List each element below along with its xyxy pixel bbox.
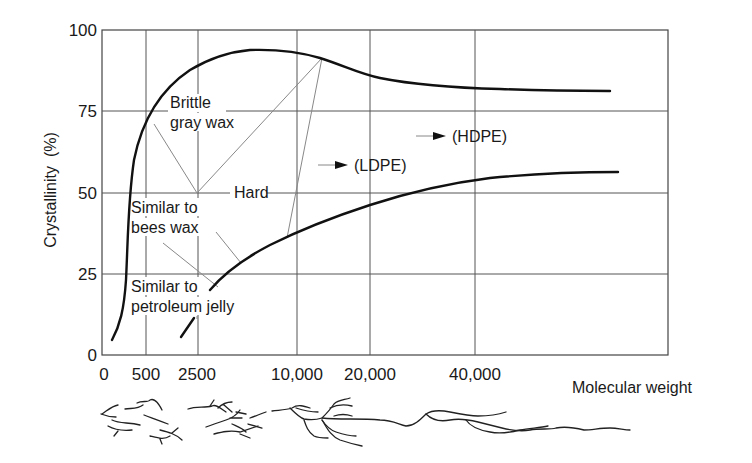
x-axis-ticks: 0 500 2500 10,000 20,000 40,000: [99, 365, 501, 384]
x-axis-label: Molecular weight: [572, 379, 693, 396]
molecule-chain-illustrations: [101, 398, 630, 446]
x-tick-20000: 20,000: [344, 365, 396, 384]
annotation-similar-to-petro: Similar to: [131, 278, 198, 295]
y-axis-ticks: 100 75 50 25 0: [69, 21, 97, 365]
annotation-petroleum-jelly: petroleum jelly: [131, 298, 234, 315]
large-branched-chain-icon: [272, 398, 362, 446]
annotations: Brittle gray wax Hard Similar to bees wa…: [131, 94, 507, 315]
hdpe-arrow-icon: [433, 132, 446, 140]
x-tick-40000: 40,000: [449, 365, 501, 384]
annotation-bees-wax: bees wax: [131, 219, 199, 236]
annotation-similar-to-bees: Similar to: [131, 199, 198, 216]
crystallinity-chart: 100 75 50 25 0 0 500 2500 10,000 20,000 …: [0, 0, 752, 463]
long-chain-icon: [322, 411, 630, 433]
short-chains-icon: [101, 399, 182, 444]
y-tick-25: 25: [78, 265, 97, 284]
y-tick-75: 75: [78, 102, 97, 121]
branched-chains-icon: [188, 400, 266, 438]
y-tick-100: 100: [69, 21, 97, 40]
y-axis-label: Crystallinity (%): [42, 132, 59, 248]
x-tick-500: 500: [132, 365, 160, 384]
ldpe-curve: [210, 172, 618, 290]
ldpe-arrow-icon: [335, 161, 348, 169]
y-tick-0: 0: [88, 346, 97, 365]
ldpe-curve-short: [181, 318, 194, 337]
annotation-brittle: Brittle: [170, 94, 211, 111]
y-tick-50: 50: [78, 184, 97, 203]
annotation-hard: Hard: [234, 184, 269, 201]
x-tick-10000: 10,000: [271, 365, 323, 384]
x-tick-0: 0: [99, 365, 108, 384]
x-tick-2500: 2500: [178, 365, 216, 384]
annotation-ldpe: (LDPE): [354, 157, 406, 174]
annotation-gray-wax: gray wax: [170, 114, 234, 131]
annotation-hdpe: (HDPE): [452, 128, 507, 145]
